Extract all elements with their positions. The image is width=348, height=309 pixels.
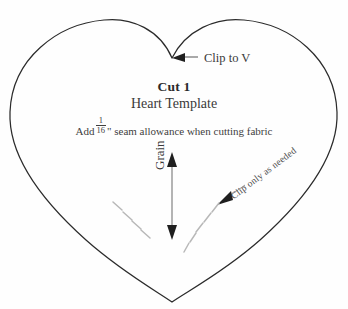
clip-marks-right — [184, 203, 219, 252]
seam-note-suffix: " seam allowance when cutting fabric — [107, 125, 272, 137]
seam-note-prefix: Add — [76, 125, 95, 137]
cut-count-label: Cut 1 — [0, 79, 348, 95]
grain-arrow — [167, 152, 177, 240]
seam-allowance-note: Add116" seam allowance when cutting fabr… — [0, 116, 348, 137]
seam-fraction-denominator: 16 — [96, 126, 107, 135]
seam-fraction: 116 — [96, 116, 107, 134]
template-canvas: Cut 1 Heart Template Add116" seam allowa… — [0, 0, 348, 309]
page-title: Heart Template — [0, 96, 348, 112]
clip-to-v-label: Clip to V — [204, 51, 250, 66]
grain-label: Grain — [152, 140, 168, 170]
clip-to-v-arrow — [172, 53, 198, 62]
clip-marks-left — [113, 202, 150, 238]
